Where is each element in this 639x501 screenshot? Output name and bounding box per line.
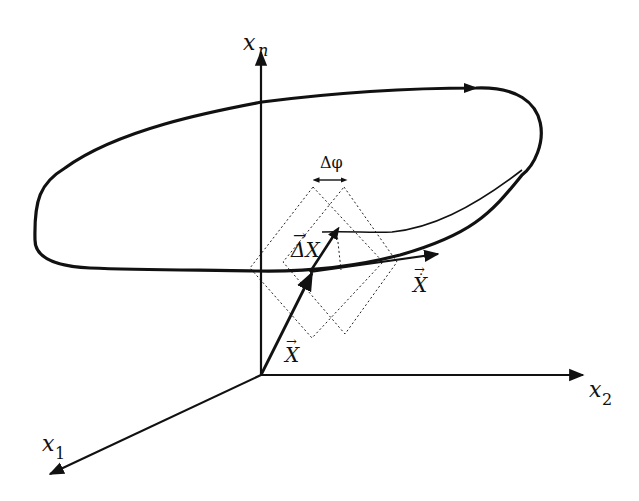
axis-label-x1-main: x	[42, 431, 55, 456]
axis-label-xn-sub: n	[258, 41, 268, 60]
state-vector-label-text: X	[283, 343, 300, 367]
phase-shift-label: Δφ	[320, 153, 343, 172]
perturbed-trajectory	[322, 170, 522, 232]
axis-x1	[50, 375, 261, 474]
axis-label-x2: x 2	[589, 377, 612, 409]
limit-cycle-orbit	[35, 88, 541, 271]
state-vector-label: → X	[283, 334, 300, 367]
axis-label-x2-main: x	[589, 377, 602, 402]
axis-label-x2-sub: 2	[602, 390, 612, 409]
axis-label-x1-sub: 1	[55, 444, 65, 463]
velocity-vector-label-text: X	[411, 273, 428, 297]
dotted-projection	[337, 233, 341, 270]
axis-label-x1: x 1	[42, 431, 65, 463]
axis-label-xn: x n	[243, 30, 268, 60]
orbit-direction-arrow	[464, 83, 478, 93]
perturbation-vector-label-text: ΔX	[290, 238, 320, 262]
perturbation-vector-label: → ΔX	[290, 226, 320, 262]
phase-space-diagram: x n x 2 x 1 → X → · X → ΔX Δφ	[0, 0, 639, 501]
velocity-vector-label: → · X	[411, 262, 428, 297]
axis-label-xn-main: x	[243, 30, 256, 55]
